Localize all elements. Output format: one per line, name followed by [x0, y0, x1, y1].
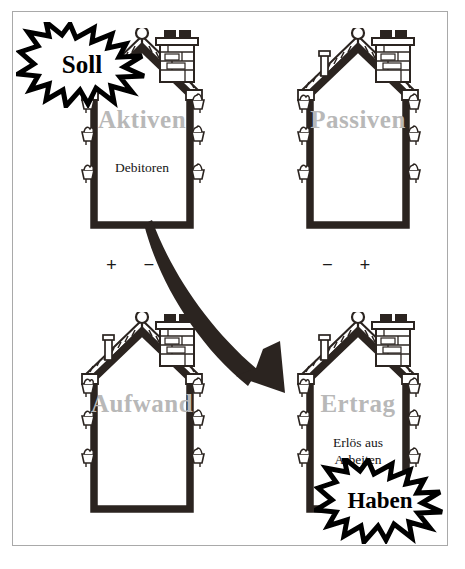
burst-soll: Soll: [16, 22, 148, 108]
figure-canvas: Aktiven Debitoren + − Passiven − + Aufwa…: [0, 0, 465, 569]
flow-arrow: [130, 218, 330, 418]
house-passiven[interactable]: Passiven: [288, 28, 428, 233]
burst-haben: Haben: [314, 458, 446, 544]
curved-arrow-icon: [130, 218, 330, 418]
starburst-icon: [314, 458, 446, 544]
signs-passiven: − +: [322, 254, 381, 276]
starburst-icon: [16, 22, 148, 108]
house-passiven-art: [288, 28, 428, 233]
